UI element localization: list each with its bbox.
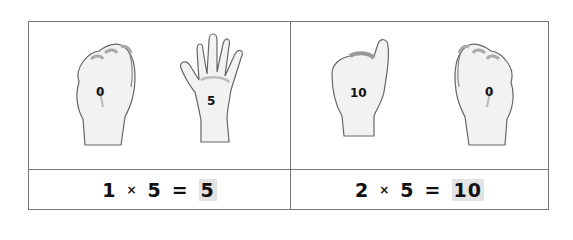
equals-sign: =	[172, 179, 189, 201]
factor-a: 1	[102, 179, 116, 201]
open-hand-icon: 5	[179, 32, 251, 144]
product-result: 5	[199, 179, 217, 201]
multiplication-table: 0 5 10 0 1 × 5 = 5 2 × 5	[28, 21, 549, 210]
factor-b: 5	[147, 179, 161, 201]
factor-a: 2	[355, 179, 369, 201]
hand-value: 0	[485, 85, 493, 99]
fist-hand-icon: 0	[69, 37, 141, 147]
thumb-up-hand-icon: 10	[328, 38, 398, 138]
times-sign: ×	[126, 183, 137, 197]
equation-1: 1 × 5 = 5	[29, 170, 290, 209]
factor-b: 5	[400, 179, 414, 201]
equals-sign: =	[425, 179, 442, 201]
times-sign: ×	[379, 183, 390, 197]
hand-value: 5	[207, 94, 215, 108]
hand-value: 10	[350, 86, 367, 100]
fist-hand-icon: 0	[449, 37, 521, 147]
product-result: 10	[452, 179, 484, 201]
equation-2: 2 × 5 = 10	[291, 170, 548, 209]
hand-value: 0	[96, 85, 104, 99]
